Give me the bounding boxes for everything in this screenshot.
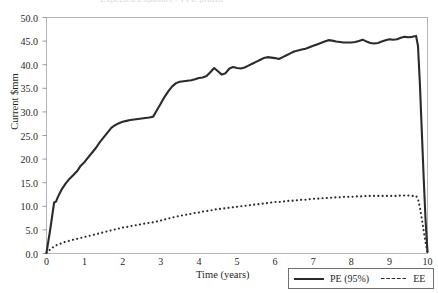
x-axis-tick-label: 5 [235, 256, 240, 267]
x-axis-tick-label: 8 [349, 256, 354, 267]
y-axis-tick-labels: 0.05.010.015.020.025.030.035.040.045.050… [4, 0, 38, 293]
legend-label-ee: EE [413, 273, 425, 284]
x-axis-tick-label: 1 [82, 256, 87, 267]
chart-title-clipped: Expected Exposure / PFE profile [100, 0, 330, 3]
plot-area [0, 0, 438, 293]
y-axis-tick-label: 10.0 [4, 201, 38, 212]
x-axis-title: Time (years) [196, 269, 250, 280]
x-axis-tick-label: 9 [387, 256, 392, 267]
y-axis-tick-label: 20.0 [4, 154, 38, 165]
x-axis-tick-label: 0 [44, 256, 49, 267]
y-axis-tick-marks [43, 18, 47, 254]
y-axis-tick-label: 30.0 [4, 106, 38, 117]
y-axis-tick-label: 40.0 [4, 59, 38, 70]
legend-item-pe: PE (95%) [289, 269, 369, 288]
legend-solid-line-icon [294, 278, 324, 280]
legend-item-ee: EE [369, 269, 425, 288]
x-axis-tick-label: 6 [273, 256, 278, 267]
chart-legend: PE (95%) EE [288, 268, 434, 289]
legend-label-pe: PE (95%) [330, 273, 369, 284]
y-axis-tick-label: 25.0 [4, 130, 38, 141]
x-axis-tick-label: 10 [423, 256, 433, 267]
legend-dotted-line-icon [380, 277, 407, 280]
y-axis-tick-label: 5.0 [4, 224, 38, 235]
y-axis-tick-label: 15.0 [4, 177, 38, 188]
x-axis-tick-label: 3 [158, 256, 163, 267]
plot-frame [47, 18, 428, 254]
y-axis-tick-label: 50.0 [4, 12, 38, 23]
y-axis-tick-label: 35.0 [4, 83, 38, 94]
x-axis-tick-label: 7 [311, 256, 316, 267]
y-axis-tick-label: 45.0 [4, 36, 38, 47]
x-axis-tick-label: 2 [120, 256, 125, 267]
chart-figure: Expected Exposure / PFE profile Current … [0, 0, 438, 293]
y-axis-tick-label: 0.0 [4, 248, 38, 259]
x-axis-tick-label: 4 [196, 256, 201, 267]
